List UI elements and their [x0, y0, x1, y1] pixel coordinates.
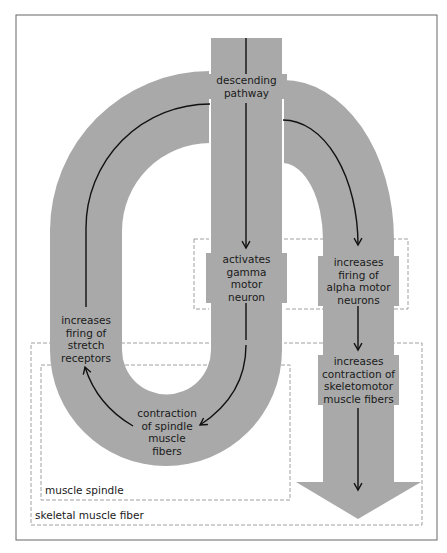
muscle-spindle-label: muscle spindle: [45, 484, 124, 496]
descending-pathway-label: descending pathway: [206, 74, 287, 99]
gamma-motor-neuron-label: activates gamma motor neuron: [206, 253, 287, 303]
skeletal-muscle-fiber-label: skeletal muscle fiber: [35, 509, 144, 521]
skeletomotor-contraction-label: increases contraction of skeletomotor mu…: [318, 355, 399, 405]
stretch-receptors-label: increases firing of stretch receptors: [46, 314, 126, 364]
left-arch-band: [50, 71, 210, 231]
diagram-canvas: descending pathway activates gamma motor…: [0, 0, 447, 553]
alpha-motor-neurons-label: increases firing of alpha motor neurons: [318, 256, 399, 306]
spindle-contraction-label: contraction of spindle muscle fibers: [131, 407, 203, 457]
